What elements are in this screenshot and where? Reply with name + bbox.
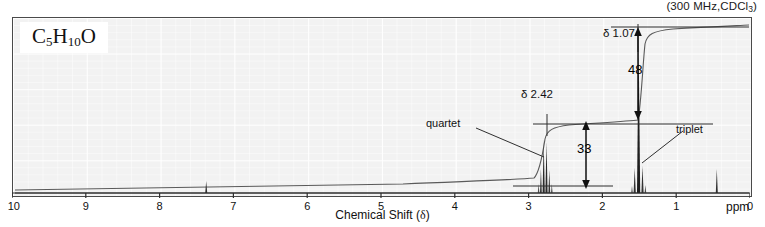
integral-value-33: 33 (577, 141, 591, 156)
triplet-leader-line (642, 131, 683, 163)
conditions-suffix: ) (753, 0, 757, 12)
axis-title: Chemical Shift (δ) (0, 208, 765, 223)
peak-tms-reference (716, 169, 718, 193)
delta-1-07-label: δ 1.07 (603, 27, 635, 39)
formula-element-o: O (81, 24, 96, 48)
spectrum-plot-area (12, 17, 752, 197)
formula-element-c: C (32, 24, 46, 48)
delta-2-42-label: δ 2.42 (521, 88, 553, 100)
spectrum-traces (13, 18, 751, 196)
conditions-prefix: (300 MHz,CDCl (666, 0, 748, 12)
formula-element-h: H (53, 24, 68, 48)
axis-title-text: Chemical Shift ( (335, 208, 420, 222)
nmr-spectrum-figure: (300 MHz,CDCl3) (0, 0, 765, 227)
integral-value-48: 48 (628, 62, 642, 77)
instrument-conditions: (300 MHz,CDCl3) (666, 0, 757, 14)
quartet-leader-line (476, 128, 544, 157)
triplet-label: triplet (676, 123, 703, 135)
chemical-shift-axis: 109876543210 (12, 192, 750, 206)
formula-count-h: 10 (68, 34, 81, 49)
axis-title-close: ) (426, 208, 430, 222)
peak-quartet-2-42 (538, 140, 553, 193)
quartet-label: quartet (426, 117, 460, 129)
molecular-formula-box: C5H10O (20, 22, 108, 53)
